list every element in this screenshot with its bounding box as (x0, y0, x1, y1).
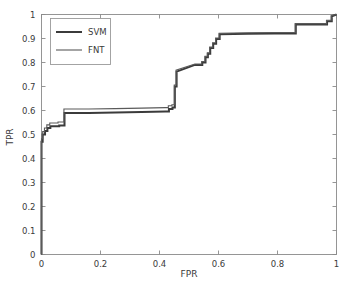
y-tick-label: 0.8 (22, 58, 36, 68)
y-tick-label: 1 (30, 10, 35, 20)
legend-label-fnt: FNT (88, 45, 105, 55)
legend-box (51, 19, 111, 65)
x-tick-label: 0.6 (212, 259, 226, 269)
x-tick-label: 0.2 (94, 259, 108, 269)
x-tick-label: 0.8 (271, 259, 285, 269)
legend-label-svm: SVM (88, 27, 107, 37)
y-tick-label: 0.3 (22, 178, 36, 188)
y-tick-label: 0 (30, 250, 35, 260)
x-tick-label: 0.4 (153, 259, 167, 269)
y-tick-label: 0.6 (22, 106, 36, 116)
x-axis-title: FPR (181, 269, 198, 279)
y-tick-label: 0.7 (22, 82, 36, 92)
y-tick-label: 0.2 (22, 202, 36, 212)
x-tick-label: 1 (334, 259, 339, 269)
roc-chart-figure: 00.20.40.60.81 00.10.20.30.40.50.60.70.8… (0, 0, 351, 290)
x-tick-label: 0 (39, 259, 44, 269)
y-axis-title: TPR (5, 128, 15, 146)
y-tick-label: 0.5 (22, 130, 36, 140)
roc-chart-svg: 00.20.40.60.81 00.10.20.30.40.50.60.70.8… (0, 0, 351, 290)
chart-legend: SVM FNT (51, 19, 111, 65)
y-tick-label: 0.9 (22, 34, 36, 44)
y-tick-label: 0.1 (22, 226, 36, 236)
y-tick-label: 0.4 (22, 154, 36, 164)
